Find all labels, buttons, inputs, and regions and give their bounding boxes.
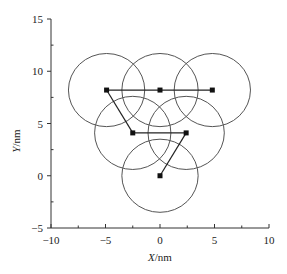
y-tick-label: 10 xyxy=(32,65,44,77)
y-tick-label: −5 xyxy=(31,222,43,234)
x-axis-label: X/nm xyxy=(147,251,172,263)
chart-canvas: −10−50510 −5051015 X/nm Y/nm xyxy=(0,0,287,274)
y-axis-ticks: −5051015 xyxy=(31,13,53,234)
square-marker xyxy=(130,130,135,135)
y-axis-label-text: Y/nm xyxy=(10,129,22,153)
x-tick-label: −5 xyxy=(100,234,112,246)
x-axis-label-text: X/nm xyxy=(147,251,172,263)
y-tick-label: 15 xyxy=(32,13,44,25)
x-axis-ticks: −10−50510 xyxy=(42,224,275,246)
square-marker xyxy=(210,88,215,93)
y-axis-label: Y/nm xyxy=(10,129,22,153)
square-marker xyxy=(104,88,109,93)
square-marker xyxy=(158,173,163,178)
square-marker xyxy=(184,130,189,135)
x-tick-label: −10 xyxy=(42,234,60,246)
x-tick-label: 0 xyxy=(157,234,163,246)
y-tick-label: 0 xyxy=(38,170,44,182)
square-marker xyxy=(158,88,163,93)
axes xyxy=(51,19,269,228)
connection-lines xyxy=(107,90,213,176)
y-tick-label: 5 xyxy=(38,118,44,130)
x-tick-label: 10 xyxy=(264,234,276,246)
x-tick-label: 5 xyxy=(212,234,218,246)
